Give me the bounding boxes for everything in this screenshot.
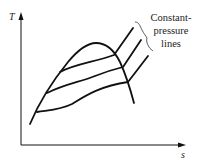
y-axis-arrow-icon xyxy=(19,12,24,20)
x-axis-arrow-icon xyxy=(178,143,186,148)
annotation-line-1: Constant- xyxy=(141,11,199,24)
constant-pressure-line-low xyxy=(37,56,148,112)
constant-pressure-annotation: Constant- pressure lines xyxy=(141,11,199,50)
ts-diagram: T s Constant- pressure lines xyxy=(0,0,199,166)
annotation-line-3: lines xyxy=(141,37,199,50)
constant-pressure-line-mid xyxy=(47,40,141,93)
x-axis-label: s xyxy=(181,150,185,160)
annotation-line-2: pressure xyxy=(141,24,199,37)
y-axis-label: T xyxy=(9,12,15,22)
